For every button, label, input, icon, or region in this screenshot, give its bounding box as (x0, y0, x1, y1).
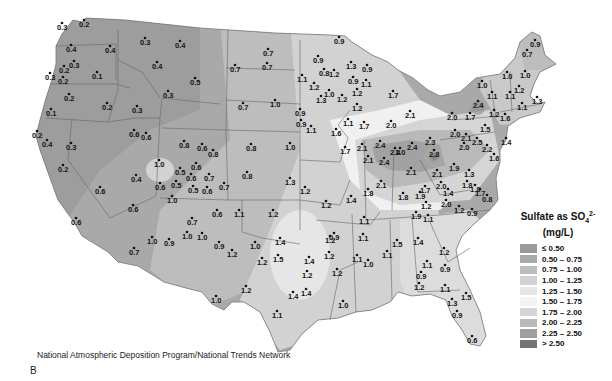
legend-label: 1.25 – 1.50 (542, 287, 582, 296)
site-value: 2.3 (425, 138, 435, 147)
site-value: 1.1 (517, 103, 527, 112)
legend-swatch (520, 340, 537, 349)
site-value: 2.4 (473, 101, 484, 110)
legend-label: 0.75 – 1.00 (542, 265, 582, 274)
site-value: 0.9 (296, 120, 306, 129)
site-marker: 1.1 (361, 79, 371, 89)
site-marker: 2.0 (450, 129, 460, 139)
site-marker: 2.3 (425, 137, 435, 147)
site-marker: 0.2 (32, 130, 42, 140)
site-marker: 1.3 (447, 298, 457, 308)
site-marker: 1.3 (532, 96, 542, 106)
site-value: 1.1 (234, 210, 244, 219)
site-value: 0.9 (214, 242, 224, 251)
legend-row: 2.00 – 2.25 (520, 317, 608, 328)
site-marker: 1.1 (297, 74, 307, 84)
site-value: 1.1 (423, 215, 433, 224)
site-value: 1.8 (398, 193, 408, 202)
site-value: 1.2 (352, 104, 362, 113)
site-value: 1.4 (413, 238, 424, 247)
site-value: 0.7 (129, 248, 139, 257)
site-value: 1.8 (462, 181, 472, 190)
site-value: 1.4 (304, 257, 315, 266)
legend-swatch (520, 329, 537, 338)
site-value: 1.5 (273, 255, 283, 264)
site-marker: 1.4 (443, 188, 454, 198)
legend-swatch (520, 319, 537, 328)
site-marker: 1.1 (358, 233, 368, 243)
site-marker: 2.4 (375, 140, 386, 150)
site-marker: 0.7 (238, 102, 248, 112)
site-marker: 1.7 (465, 112, 475, 122)
site-marker: 1.1 (352, 254, 362, 264)
site-marker: 1.2 (337, 94, 347, 104)
site-marker: 0.5 (171, 180, 181, 190)
site-marker: 1.7 (475, 188, 485, 198)
site-marker: 1.0 (182, 231, 192, 241)
site-marker: 0.7 (522, 49, 532, 59)
site-value: 1.2 (302, 271, 312, 280)
site-value: 1.1 (359, 217, 369, 226)
site-value: 1.2 (309, 83, 319, 92)
site-value: 1.1 (487, 92, 497, 101)
site-value: 1.2 (421, 202, 431, 211)
site-marker: 0.2 (64, 93, 74, 103)
site-marker: 1.1 (359, 216, 369, 226)
site-value: 1.9 (411, 212, 421, 221)
site-value: 1.0 (167, 196, 177, 205)
site-marker: 0.7 (129, 247, 139, 257)
site-marker: 1.4 (275, 237, 286, 247)
site-marker: 0.9 (296, 119, 306, 129)
site-marker: 0.8 (246, 143, 256, 153)
site-marker: 0.2 (102, 102, 112, 112)
site-marker: 1.2 (227, 249, 237, 259)
site-value: 0.7 (522, 50, 532, 59)
site-marker: 0.7 (204, 173, 214, 183)
site-value: 0.7 (187, 218, 197, 227)
site-value: 0.2 (58, 77, 68, 86)
site-value: 1.1 (272, 311, 282, 320)
site-value: 1.6 (500, 114, 510, 123)
site-marker: 1.4 (288, 291, 299, 301)
site-value: 0.5 (190, 78, 200, 87)
site-value: 2.0 (386, 121, 396, 130)
site-marker: 0.6 (202, 186, 212, 196)
site-value: 0.8 (179, 141, 189, 150)
site-value: 1.4 (301, 289, 312, 298)
site-value: 1.4 (275, 238, 286, 247)
legend-row: 1.75 – 2.00 (520, 307, 608, 318)
site-value: 1.2 (337, 95, 347, 104)
site-value: 0.6 (141, 133, 151, 142)
site-value: 1.3 (447, 299, 457, 308)
site-value: 2.0 (447, 113, 457, 122)
site-marker: 0.6 (212, 209, 222, 219)
site-value: 0.4 (152, 62, 163, 71)
site-marker: 0.9 (416, 271, 426, 281)
site-marker: 0.9 (530, 39, 540, 49)
site-marker: 0.5 (190, 77, 200, 87)
site-value: 1.0 (477, 81, 487, 90)
site-marker: 0.6 (197, 143, 207, 153)
site-value: 1.1 (343, 119, 353, 128)
site-marker: 2.0 (459, 142, 469, 152)
site-value: 0.8 (246, 144, 256, 153)
site-value: 1.1 (358, 234, 368, 243)
site-value: 1.6 (331, 129, 341, 138)
site-value: 0.1 (92, 72, 102, 81)
sulfate-concentration-map: 0.30.20.40.30.20.30.20.10.20.10.40.20.30… (0, 0, 612, 381)
site-value: 2.5 (472, 138, 482, 147)
site-marker: 1.2 (439, 247, 449, 257)
site-value: 1.0 (182, 232, 192, 241)
site-marker: 1.0 (211, 295, 221, 305)
site-value: 2.1 (363, 156, 373, 165)
site-marker: 0.6 (71, 217, 81, 227)
site-value: 1.7 (388, 91, 398, 100)
site-marker: 0.4 (175, 40, 186, 50)
site-value: 0.9 (467, 209, 477, 218)
site-marker: 1.8 (363, 188, 373, 198)
legend-row: 2.25 – 2.50 (520, 328, 608, 339)
site-value: 1.0 (363, 260, 373, 269)
site-marker: 0.9 (440, 264, 450, 274)
site-marker: 1.9 (415, 191, 425, 201)
site-marker: 2.4 (473, 100, 484, 110)
